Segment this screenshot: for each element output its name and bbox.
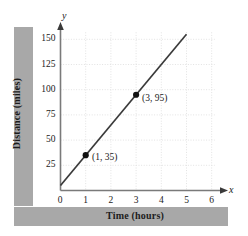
data-point-marker <box>133 92 139 98</box>
x-tick-label: 3 <box>128 195 144 205</box>
data-point-marker <box>83 152 89 158</box>
y-axis-variable-label: y <box>62 10 66 21</box>
y-axis-arrow <box>57 22 64 30</box>
x-axis-arrow <box>220 187 228 194</box>
x-tick-label: 4 <box>153 195 169 205</box>
y-tick-label: 150 <box>34 33 56 43</box>
y-tick-label: 50 <box>34 134 56 144</box>
axes <box>57 22 228 194</box>
y-tick-label: 125 <box>34 59 56 69</box>
x-tick-label: 5 <box>179 195 195 205</box>
x-tick-label: 2 <box>103 195 119 205</box>
y-tick-label: 75 <box>34 109 56 119</box>
y-tick-label: 25 <box>34 159 56 169</box>
x-tick-label: 1 <box>78 195 94 205</box>
series-line <box>61 34 187 185</box>
data-line <box>61 34 187 185</box>
y-tick-label: 100 <box>34 84 56 94</box>
y-tick-label: 0 <box>41 195 63 205</box>
data-point-label: (1, 35) <box>92 152 117 162</box>
gridlines <box>61 32 215 190</box>
x-axis-variable-label: x <box>229 184 233 195</box>
data-point-label: (3, 95) <box>142 93 167 103</box>
x-tick-label: 6 <box>204 195 220 205</box>
chart-figure: Distance (miles) Time (hours) 0255075100… <box>0 0 248 236</box>
